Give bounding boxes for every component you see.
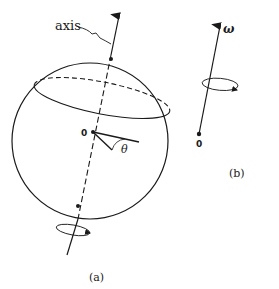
rotation-loop-a [55, 222, 90, 238]
axis-pole-top [109, 57, 113, 61]
axis-leader-line [78, 27, 111, 44]
panel-b: ω 0 (b) [196, 22, 245, 180]
panel-a: axis 0 θ (a) [12, 16, 173, 284]
caption-a: (a) [89, 271, 104, 284]
origin-label: 0 [81, 128, 87, 138]
axis-pole-bottom [76, 204, 80, 208]
omega-label: ω [223, 22, 235, 36]
origin-label-b: 0 [196, 139, 202, 149]
origin-dot-b [197, 132, 201, 136]
figure-canvas: axis 0 θ (a) ω 0 (b) [0, 0, 279, 289]
omega-vector [199, 26, 220, 134]
caption-b: (b) [229, 167, 245, 180]
sphere-outline [12, 63, 168, 219]
radius-line-1 [93, 132, 139, 142]
equator-ellipse [31, 69, 173, 127]
theta-label: θ [121, 143, 128, 156]
axis-label: axis [55, 18, 81, 33]
